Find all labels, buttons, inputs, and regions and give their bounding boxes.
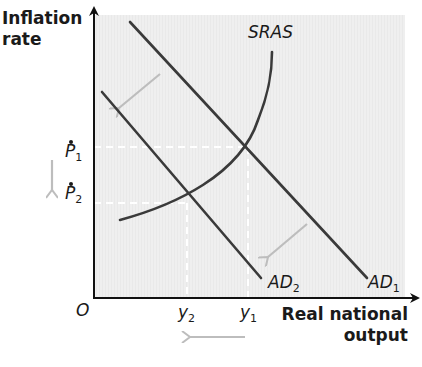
p1-label-text: P [65,141,75,161]
ad2-label-text: AD [268,272,293,292]
origin-label: O [76,300,89,320]
y2-label: y2 [178,302,195,325]
y1-label-sub: 1 [250,312,257,325]
p1-label: P1 [65,141,82,164]
x-axis-label-line2: output [282,325,408,346]
plot-area [94,15,405,298]
ad1-label-sub: 1 [393,282,400,295]
x-axis-label: Real national output [282,304,408,346]
y-axis-label: Inflation rate [2,8,82,50]
ad2-label: AD2 [268,272,300,295]
y1-label: y1 [240,302,257,325]
p2-label-text: P [65,183,75,203]
y-axis-label-line1: Inflation [2,8,82,29]
p2-label-sub: 2 [75,193,82,206]
sras-label: SRAS [248,22,293,42]
y-axis-label-line2: rate [2,29,82,50]
p1-label-sub: 1 [75,151,82,164]
y2-label-sub: 2 [188,312,195,325]
p2-label: P2 [65,183,82,206]
ad1-label: AD1 [368,272,400,295]
x-axis-label-line1: Real national [282,304,408,325]
y2-label-text: y [178,302,188,322]
ad2-label-sub: 2 [293,282,300,295]
y1-label-text: y [240,302,250,322]
ad1-label-text: AD [368,272,393,292]
